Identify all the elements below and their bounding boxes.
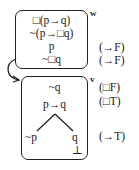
world-w-label: w bbox=[90, 8, 97, 18]
formula: ~□q bbox=[15, 53, 88, 65]
formula: ~(p→□q) bbox=[15, 27, 88, 39]
closed-branch-marker: ⊥ bbox=[72, 144, 83, 156]
branch-left-formula: ~p bbox=[25, 131, 37, 143]
rule-annotation: (→F) bbox=[99, 41, 125, 53]
formula: ~q bbox=[21, 81, 88, 93]
rule-annotation: (→T) bbox=[99, 130, 125, 142]
rule-annotation: (□F) bbox=[99, 81, 120, 93]
branch-right-formula: q bbox=[72, 131, 78, 143]
world-v-label: v bbox=[90, 74, 95, 84]
rule-annotation: (□T) bbox=[99, 95, 121, 107]
formula: □(p→q) bbox=[15, 14, 88, 26]
rule-annotation: (→F) bbox=[99, 54, 125, 66]
formula: p→q bbox=[21, 98, 88, 110]
formula: p bbox=[15, 40, 88, 52]
